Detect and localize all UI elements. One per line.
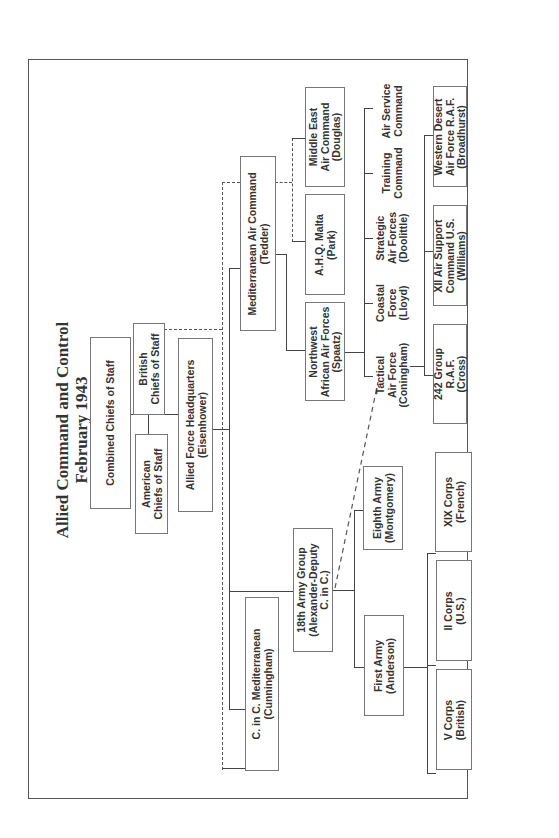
- node-allied-force-hq[interactable]: Allied Force Headquarters (Eisenhower): [178, 338, 213, 512]
- node-label: Coastal Force (Lloyd): [375, 284, 410, 322]
- node-label: 18th Army Group (Alexander-Deputy C. in …: [296, 543, 331, 636]
- dashed-connector-diagonal: [0, 0, 559, 838]
- node-label: 242 Group R.A.F. (Cross): [433, 348, 468, 400]
- node-label: Allied Force Headquarters (Eisenhower): [184, 360, 207, 491]
- node-18th-army-group[interactable]: 18th Army Group (Alexander-Deputy C. in …: [293, 528, 333, 652]
- node-middle-east-ac[interactable]: Middle East Air Command (Douglas): [305, 87, 345, 187]
- node-label: Strategic Air Forces (Doolittle): [375, 212, 410, 264]
- node-first-army[interactable]: First Army (Anderson): [364, 615, 404, 716]
- node-242-group[interactable]: 242 Group R.A.F. (Cross): [433, 324, 467, 424]
- node-med-air-command[interactable]: Mediterranean Air Command (Tedder): [240, 156, 276, 331]
- node-air-service-command[interactable]: Air Service Command: [373, 80, 411, 142]
- node-xix-corps[interactable]: XIX Corps (French): [435, 452, 472, 552]
- node-label: American Chiefs of Staff: [140, 448, 163, 519]
- node-label: Northwest African Air Forces (Spaatz): [308, 306, 343, 397]
- node-v-corps[interactable]: V Corps (British): [436, 669, 472, 770]
- node-c-in-c-med[interactable]: C. in C. Mediterranean (Cunningham): [245, 597, 279, 771]
- node-british-chiefs[interactable]: British Chiefs of Staff: [133, 323, 165, 415]
- node-ahq-malta[interactable]: A.H.Q. Malta (Park): [305, 194, 345, 295]
- node-tactical-af[interactable]: Tactical Air Force (Coningham): [373, 340, 411, 410]
- node-xii-air-support[interactable]: XII Air Support Command U.S. (Williams): [433, 205, 467, 306]
- node-label: XII Air Support Command U.S. (Williams): [433, 218, 468, 293]
- node-western-desert-af[interactable]: Western Desert Air Force R.A.F. (Broadhu…: [433, 86, 467, 187]
- node-nw-african-af[interactable]: Northwest African Air Forces (Spaatz): [305, 302, 345, 401]
- node-strategic-af[interactable]: Strategic Air Forces (Doolittle): [373, 205, 411, 271]
- node-combined-chiefs[interactable]: Combined Chiefs of Staff: [90, 337, 131, 509]
- node-label: Tactical Air Force (Coningham): [375, 343, 410, 408]
- node-coastal-force[interactable]: Coastal Force (Lloyd): [373, 272, 411, 334]
- node-label: Western Desert Air Force R.A.F. (Broadhu…: [433, 97, 468, 175]
- node-eighth-army[interactable]: Eighth Army (Montgomery): [363, 466, 403, 550]
- node-label: Training Command: [381, 147, 404, 198]
- node-label: C. in C. Mediterranean (Cunningham): [251, 629, 274, 740]
- node-label: British Chiefs of Staff: [138, 333, 161, 404]
- node-label: Eighth Army (Montgomery): [372, 473, 395, 543]
- node-label: II Corps (U.S.): [443, 591, 466, 630]
- node-label: Middle East Air Command (Douglas): [308, 103, 343, 172]
- node-label: Combined Chiefs of Staff: [105, 360, 117, 485]
- node-american-chiefs[interactable]: American Chiefs of Staff: [135, 434, 168, 534]
- node-training-command[interactable]: Training Command: [373, 143, 411, 203]
- node-label: Air Service Command: [381, 84, 404, 139]
- node-label: A.H.Q. Malta (Park): [314, 214, 337, 276]
- node-label: V Corps (British): [443, 699, 466, 739]
- node-ii-corps[interactable]: II Corps (U.S.): [436, 560, 472, 661]
- node-label: XIX Corps (French): [442, 477, 465, 527]
- node-label: First Army (Anderson): [373, 638, 396, 694]
- node-label: Mediterranean Air Command (Tedder): [247, 172, 270, 315]
